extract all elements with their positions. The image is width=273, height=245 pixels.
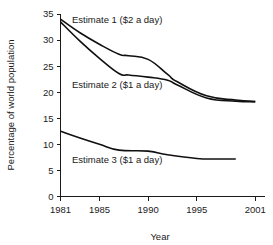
y-tick-label: 15 <box>43 113 54 124</box>
x-tick-label: 2001 <box>245 204 266 215</box>
y-tick-label: 35 <box>43 8 54 19</box>
x-tick-label: 1985 <box>89 204 110 215</box>
series-annotation-estimate-3: Estimate 3 ($1 a day) <box>72 154 162 165</box>
x-tick-label: 1981 <box>50 204 71 215</box>
x-tick-label: 1995 <box>186 204 207 215</box>
y-tick-label: 10 <box>43 139 54 150</box>
y-tick-label: 25 <box>43 61 54 72</box>
y-axis: 05101520253035 Percentage of world popul… <box>5 8 61 202</box>
x-axis-title: Year <box>150 231 169 242</box>
y-tick-label: 30 <box>43 34 54 45</box>
line-chart: 05101520253035 Percentage of world popul… <box>0 0 273 245</box>
x-axis-ticks <box>61 197 256 201</box>
x-axis-tick-labels: 19811985199019952001 <box>50 204 266 215</box>
series-annotation-estimate-2: Estimate 2 ($1 a day) <box>72 79 162 90</box>
y-axis-tick-labels: 05101520253035 <box>43 8 54 202</box>
y-axis-ticks <box>57 14 61 197</box>
y-tick-label: 0 <box>48 191 53 202</box>
x-tick-label: 1990 <box>138 204 159 215</box>
series-annotation-estimate-1: Estimate 1 ($2 a day) <box>72 14 162 25</box>
chart-container: 05101520253035 Percentage of world popul… <box>0 0 273 245</box>
y-axis-title: Percentage of world population <box>5 40 16 171</box>
y-tick-label: 20 <box>43 87 54 98</box>
x-axis: 19811985199019952001 Year <box>50 197 266 243</box>
y-tick-label: 5 <box>48 165 53 176</box>
